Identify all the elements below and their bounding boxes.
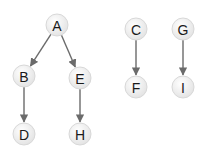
edges-layer [24,34,183,122]
node-label: F [132,80,141,96]
node-E: E [69,67,91,89]
node-label: E [75,71,84,87]
node-B: B [13,65,35,87]
nodes-layer: ABEDHCFGI [13,14,194,145]
node-label: I [181,80,185,96]
node-label: H [75,127,85,143]
edge-A-B [31,34,52,66]
node-label: D [19,127,29,143]
node-C: C [125,18,147,40]
node-H: H [69,123,91,145]
node-A: A [46,14,68,36]
node-D: D [13,123,35,145]
node-label: B [19,69,28,85]
node-G: G [172,18,194,40]
node-label: C [131,22,141,38]
node-F: F [125,76,147,98]
edge-A-E [61,35,75,67]
diagram-canvas: ABEDHCFGI [0,0,206,160]
node-label: A [52,18,62,34]
node-label: G [178,22,189,38]
node-I: I [172,76,194,98]
